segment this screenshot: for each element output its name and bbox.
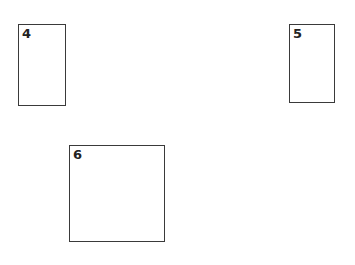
box-label: 6 <box>73 147 82 162</box>
box-4: 4 <box>18 24 66 106</box>
box-6: 6 <box>69 145 165 242</box>
box-5: 5 <box>289 24 335 103</box>
box-label: 5 <box>293 26 302 41</box>
box-label: 4 <box>22 26 31 41</box>
